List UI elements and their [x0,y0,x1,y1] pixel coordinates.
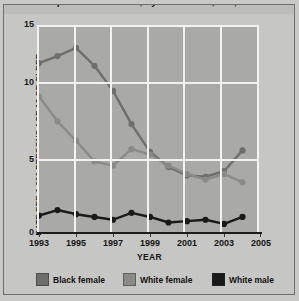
data-point [39,212,42,218]
data-point [91,63,97,69]
x-tick-label-2003: 2003 [214,238,234,248]
legend: Black female White female White male [16,272,284,288]
x-tick-2001 [187,234,188,237]
legend-swatch-black-female [36,273,49,286]
gridline-y5 [39,159,257,161]
x-tick-1995 [76,234,77,237]
x-tick-1997 [113,234,114,237]
data-point [202,176,208,182]
data-point [239,179,245,185]
data-point [54,53,60,59]
x-tick-label-1993: 1993 [29,238,49,248]
data-point [128,210,134,216]
y-tick-label-0: 0 [8,228,34,237]
gridline-2003 [220,27,222,233]
legend-item-white-female[interactable]: White female [123,272,192,287]
gridline-2001 [183,27,185,233]
y-tick-label-15: 15 [8,20,34,29]
gridline-1997 [110,27,112,233]
x-tick-2003 [224,234,225,237]
gridline-y10 [39,82,257,84]
series-line [39,48,243,177]
x-tick-2005 [260,234,261,237]
plot-area [37,25,259,233]
legend-label-black-female: Black female [53,275,105,285]
gridline-1995 [74,27,76,233]
x-axis-ticks: 1993 1995 1997 1999 2001 2003 2005 [0,238,299,250]
chart-figure: Rate of rape/sexual assault, by victim r… [0,0,299,301]
data-point [54,118,60,124]
series-layer [39,27,261,235]
data-point [239,214,245,220]
x-tick-1993 [39,234,40,237]
x-axis-title: YEAR [37,252,262,262]
legend-swatch-white-male [212,273,225,286]
data-point [165,219,171,225]
legend-label-white-female: White female [140,275,192,285]
data-point [128,146,134,152]
page-title: Rate of rape/sexual assault, by victim r… [4,5,294,7]
series-line [39,210,243,224]
data-point [54,207,60,213]
x-tick-label-2001: 2001 [177,238,197,248]
data-point [239,147,245,153]
series-white-male [39,207,246,227]
x-tick-label-1997: 1997 [103,238,123,248]
data-point [202,217,208,223]
x-tick-1999 [150,234,151,237]
chart-title-strip: Rate of rape/sexual assault, by victim r… [4,5,294,14]
x-tick-label-1999: 1999 [140,238,160,248]
legend-label-white-male: White male [229,275,274,285]
data-point [165,163,171,169]
y-tick-label-10: 10 [8,78,34,87]
legend-swatch-white-female [123,273,136,286]
gridline-1999 [147,27,149,233]
data-point [128,121,134,127]
x-tick-label-2005: 2005 [251,238,271,248]
y-tick-label-5: 5 [8,155,34,164]
y-axis-ticks: 15 10 5 0 [4,0,34,301]
data-point [91,214,97,220]
legend-item-black-female[interactable]: Black female [36,272,105,287]
x-tick-label-1995: 1995 [66,238,86,248]
legend-item-white-male[interactable]: White male [212,272,274,287]
